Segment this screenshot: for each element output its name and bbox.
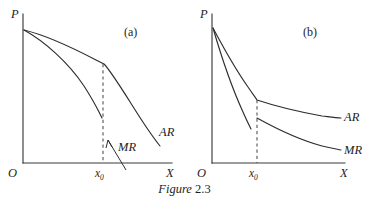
panel-a-y-axis-label: P [10,7,19,21]
panel-b-origin-label: O [197,166,206,180]
panel-b-x-axis-label: X [339,166,349,180]
panel-a-x0-tick-subscript: 0 [100,173,104,182]
panel-b-x0-tick-subscript: 0 [254,173,258,182]
panel-b: P X O x0 AR MR (b) [197,7,363,182]
panel-b-mr-curve [213,28,341,150]
panel-b-ar-label: AR [343,110,360,124]
panel-a-tag: (a) [124,25,137,39]
panel-b-x0-tick-label: x0 [248,167,258,182]
figure-caption-number: 2.3 [195,182,211,196]
panel-a-mr-curve [24,30,102,118]
panel-b-y-axis-label: P [199,7,208,21]
panel-b-ar-curve [213,28,341,118]
figure-caption-word: Figure [158,182,192,196]
figure-caption: Figure 2.3 [0,182,369,197]
panel-a-x0-tick-label: x0 [94,167,104,182]
figure-2-3: P X O x0 AR MR (a) P X O [0,0,369,205]
panel-a-ar-curve [24,30,160,146]
panel-a-mr-leader-arrowhead [106,140,112,148]
figure-canvas: P X O x0 AR MR (a) P X O [0,0,369,205]
panel-a-mr-label: MR [117,140,137,154]
panel-a-ar-label: AR [158,125,175,139]
panel-b-tag: (b) [303,25,317,39]
panel-b-mr-label: MR [343,143,363,157]
panel-a-x-axis-label: X [165,166,175,180]
panel-a: P X O x0 AR MR (a) [8,7,175,182]
panel-a-origin-label: O [8,166,17,180]
